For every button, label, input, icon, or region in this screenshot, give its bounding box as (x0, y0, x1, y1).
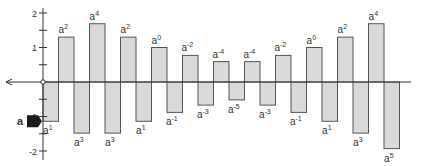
bar-label: a-3 (197, 108, 209, 120)
bar-label: a-4 (243, 48, 255, 60)
bar-a^-2 (183, 55, 199, 82)
bar-label: a-1 (290, 115, 302, 127)
bar-label: a1 (136, 124, 146, 136)
bar-a^-1 (291, 82, 307, 112)
bar-a^5 (384, 82, 400, 149)
bar-a^-3 (260, 82, 276, 105)
bar-a^0 (152, 48, 168, 83)
bar-label: a1 (43, 124, 53, 136)
bar-a^2 (121, 37, 137, 82)
bar-a^3 (105, 82, 121, 133)
bar-a^2 (338, 37, 354, 82)
bar-label: a2 (338, 23, 348, 35)
y-tick-label: 2 (32, 9, 37, 19)
bar-a^3 (74, 82, 90, 133)
bar-label: a3 (353, 136, 363, 148)
bar-label: a2 (121, 23, 131, 35)
bar-label: a-5 (228, 103, 240, 115)
bar-a^2 (59, 37, 75, 82)
bar-a^-5 (229, 82, 245, 100)
bar-a^3 (353, 82, 369, 133)
bar-label: a0 (307, 34, 317, 46)
bar-a^-4 (245, 62, 261, 82)
bar-a^-2 (276, 55, 292, 82)
bar-a^1 (136, 82, 152, 121)
bar-label: a-4 (212, 48, 224, 60)
powers-of-a-diagram: 211-2 a1a2a3a4a3a2a1a0a-1a-2a-3a-4a-5a-4… (0, 0, 424, 166)
bar-a^-1 (167, 82, 183, 112)
bar-label: a-2 (274, 41, 286, 53)
a-value-marker: a (17, 115, 42, 127)
bar-a^0 (307, 48, 323, 83)
y-tick-label: 1 (32, 43, 37, 53)
bar-group (43, 24, 400, 149)
bar-a^-4 (214, 62, 230, 82)
bar-label: a4 (90, 10, 100, 22)
bar-label: a3 (105, 136, 115, 148)
bar-a^1 (43, 82, 59, 121)
bar-a^4 (90, 24, 106, 82)
bar-label: a1 (322, 124, 332, 136)
bar-label: a2 (59, 23, 69, 35)
bar-label: a-1 (166, 115, 178, 127)
bar-a^4 (369, 24, 385, 82)
origin-circle-icon (41, 80, 45, 84)
bar-label: a-2 (181, 41, 193, 53)
bar-a^1 (322, 82, 338, 121)
pointer-arrow-icon (27, 115, 42, 127)
bar-a^-3 (198, 82, 214, 105)
bar-label: a0 (152, 34, 162, 46)
bar-label: a4 (369, 10, 379, 22)
bar-label: a-3 (259, 108, 271, 120)
bar-label: a5 (384, 152, 394, 164)
y-tick-label: -2 (29, 147, 37, 157)
bar-label: a3 (74, 136, 84, 148)
marker-label: a (17, 115, 24, 127)
